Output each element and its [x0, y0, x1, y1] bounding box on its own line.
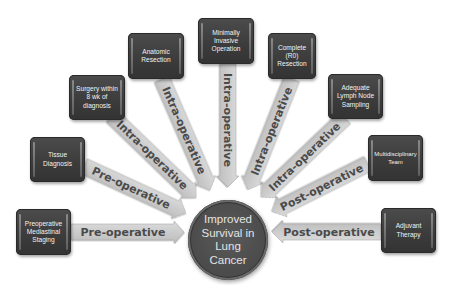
- arrow-preoperative-mediastinal-staging: Pre-operative: [71, 221, 184, 243]
- node-tissue-diagnosis: Tissue Diagnosis: [30, 137, 85, 182]
- node-adjuvant-therapy: Adjuvant Therapy: [381, 208, 436, 253]
- node-adequate-lymph-node-sampling: Adequate Lymph Node Sampling: [328, 74, 383, 119]
- node-minimally-invasive-operation: Minimally Invasive Operation: [198, 18, 254, 64]
- node-preoperative-mediastinal-staging: Preoperative Mediastinal Staging: [16, 209, 71, 255]
- arrow-adjuvant-therapy: Post-operative: [272, 221, 381, 243]
- arrow-label: Pre-operative: [81, 226, 166, 239]
- arrow-minimally-invasive-operation: Intra-operative: [217, 64, 239, 187]
- center-outcome-circle: Improved Survival in Lung Cancer: [188, 200, 268, 280]
- node-anatomic-resection: Anatomic Resection: [128, 33, 184, 79]
- node-surgery-within-8-wk: Surgery within 8 wk of diagnosis: [69, 75, 125, 120]
- node-multidisciplinary-team: Multidisciplinary Team: [368, 135, 423, 181]
- arrow-label: Post-operative: [283, 226, 374, 239]
- diagram-canvas: Pre-operative Pre-operative Intra-operat…: [0, 0, 451, 285]
- node-complete-r0-resection: Complete (R0) Resection: [268, 33, 316, 79]
- arrow-label: Intra-operative: [221, 73, 234, 167]
